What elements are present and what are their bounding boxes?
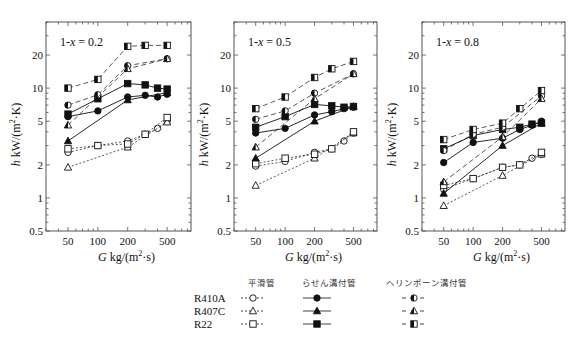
legend-col-herringbone: ヘリンボーン溝付管 (386, 276, 467, 288)
square-marker-icon (314, 321, 320, 327)
series-herringbone-r22 (65, 42, 171, 91)
y-axis-label: h kW/(m2·K) (8, 103, 23, 167)
square-marker-icon (142, 82, 148, 88)
series-herringbone-r410a (65, 56, 171, 109)
series-herringbone-r22 (440, 87, 544, 142)
series-smooth-r410a (252, 130, 356, 169)
square-marker-icon (65, 111, 71, 117)
y-axis-label: h kW/(m2·K) (384, 103, 399, 167)
square-marker-icon (250, 321, 256, 327)
triangle-marker-icon (252, 182, 259, 189)
square-marker-icon (282, 155, 288, 161)
y-tick-label: 5 (226, 115, 232, 127)
circle-marker-icon (250, 295, 256, 301)
square-marker-icon (124, 80, 130, 86)
y-tick-label: 2 (414, 159, 420, 171)
series-herringbone-r410a (252, 71, 356, 123)
y-tick-label: 1 (38, 192, 44, 204)
square-marker-icon (529, 121, 535, 127)
triangle-marker-icon (252, 154, 259, 161)
square-marker-icon (499, 164, 505, 170)
legend-col-smooth: 平滑管 (248, 276, 275, 288)
series-smooth-r22 (65, 114, 171, 152)
x-axis-label: G kg/(m2·s) (285, 249, 342, 264)
triangle-marker-icon (499, 142, 506, 149)
y-tick-label: 5 (414, 115, 420, 127)
x-tick-label: 100 (90, 235, 107, 247)
series-smooth-r22 (440, 149, 544, 188)
y-tick-label: 20 (408, 49, 420, 61)
series-smooth-r410a (65, 118, 171, 156)
series-smooth-r22 (252, 129, 356, 167)
triangle-marker-icon (313, 307, 320, 314)
legend-row-r410a: R410A (194, 292, 226, 304)
square-marker-icon (538, 149, 544, 155)
square-marker-icon (65, 146, 71, 152)
y-tick-label: 2 (226, 159, 232, 171)
square-marker-icon (517, 162, 523, 168)
square-marker-icon (329, 146, 335, 152)
legend-row-r407c: R407C (194, 305, 225, 317)
square-marker-icon (311, 151, 317, 157)
x-tick-label: 200 (494, 235, 511, 247)
panel-quality-label: 1-x = 0.8 (436, 35, 479, 49)
y-tick-label: 10 (32, 82, 44, 94)
x-tick-label: 200 (119, 235, 136, 247)
square-marker-icon (164, 114, 170, 120)
x-tick-label: 100 (465, 235, 482, 247)
panel-2: 501002005000.51251020G kg/(m2·s)h kW/(m2… (196, 22, 377, 264)
y-tick-label: 1 (226, 192, 232, 204)
square-marker-icon (311, 101, 317, 107)
legend-col-spiral: らせん溝付管 (302, 276, 356, 288)
panel-quality-label: 1-x = 0.2 (60, 35, 103, 49)
series-smooth-r407c (252, 129, 357, 188)
square-marker-icon (252, 124, 258, 130)
square-marker-icon (350, 103, 356, 109)
x-tick-label: 50 (62, 235, 74, 247)
square-marker-icon (341, 104, 347, 110)
panel-3: 501002005000.51251020G kg/(m2·s)h kW/(m2… (384, 22, 565, 264)
series-spiral-r22 (440, 120, 544, 152)
square-marker-icon (124, 141, 130, 147)
circle-marker-icon (314, 295, 320, 301)
circle-marker-icon (440, 159, 446, 165)
square-marker-icon (470, 175, 476, 181)
y-tick-label: 5 (38, 115, 44, 127)
series-spiral-r407c (252, 103, 357, 161)
square-marker-icon (164, 86, 170, 92)
series-smooth-r410a (440, 151, 544, 192)
y-tick-label: 10 (408, 82, 420, 94)
triangle-marker-icon (64, 137, 71, 144)
triangle-marker-icon (440, 202, 447, 209)
y-tick-label: 0.5 (217, 225, 231, 237)
panel-quality-label: 1-x = 0.5 (248, 35, 291, 49)
x-tick-label: 100 (277, 235, 294, 247)
x-tick-label: 500 (533, 235, 550, 247)
square-marker-icon (142, 131, 148, 137)
circle-marker-icon (282, 125, 288, 131)
triangle-marker-icon (249, 307, 256, 314)
y-tick-label: 20 (32, 49, 44, 61)
y-axis-label: h kW/(m2·K) (196, 103, 211, 167)
triangle-marker-icon (499, 172, 506, 179)
x-tick-label: 500 (159, 235, 176, 247)
panel-1: 501002005000.51251020G kg/(m2·s)h kW/(m2… (8, 22, 191, 264)
heat-transfer-figure: 501002005000.51251020G kg/(m2·s)h kW/(m2… (0, 0, 588, 339)
y-tick-label: 0.5 (405, 225, 419, 237)
square-marker-icon (538, 120, 544, 126)
y-tick-label: 20 (220, 49, 232, 61)
x-tick-label: 50 (250, 235, 262, 247)
square-marker-icon (517, 124, 523, 130)
square-marker-icon (95, 142, 101, 148)
x-tick-label: 500 (345, 235, 362, 247)
x-axis-label: G kg/(m2·s) (98, 249, 155, 264)
square-marker-icon (154, 85, 160, 91)
triangle-marker-icon (64, 164, 71, 171)
legend-symbols (241, 295, 426, 327)
circle-marker-icon (95, 108, 101, 114)
legend-row-r22: R22 (194, 318, 212, 330)
y-tick-label: 2 (38, 159, 44, 171)
square-marker-icon (350, 129, 356, 135)
square-marker-icon (329, 103, 335, 109)
x-tick-label: 200 (306, 235, 323, 247)
